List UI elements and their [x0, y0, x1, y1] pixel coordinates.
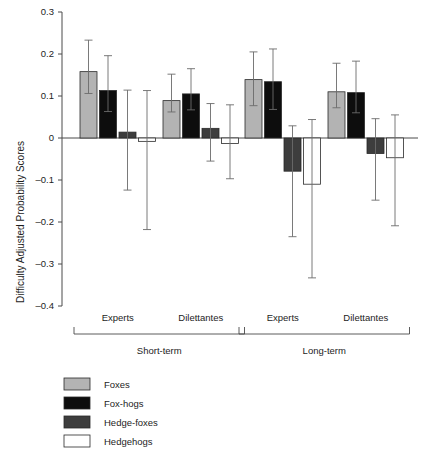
category-label-0: Experts [102, 312, 134, 323]
legend-swatch-fox-hogs [64, 397, 90, 409]
legend-swatch-hedgehogs [64, 435, 90, 447]
y-tick-label: –0.2 [36, 216, 55, 227]
y-tick-label: 0.1 [41, 90, 54, 101]
legend-label-1: Fox-hogs [104, 398, 144, 409]
y-tick-label: –0.4 [36, 300, 55, 311]
legend-swatch-foxes [64, 378, 90, 390]
chart-figure: Difficulty Adjusted Probability Scores 0… [0, 0, 426, 453]
legend-label-3: Hedgehogs [104, 436, 153, 447]
supergroup-label-1: Long-term [303, 345, 346, 356]
category-label-2: Experts [267, 312, 299, 323]
error-bar [391, 115, 399, 226]
bar-chart-canvas: Difficulty Adjusted Probability Scores 0… [0, 0, 426, 453]
legend-label-2: Hedge-foxes [104, 417, 158, 428]
y-tick-label: –0.1 [36, 174, 55, 185]
legend-swatch-hedge-foxes [64, 416, 90, 428]
legend: FoxesFox-hogsHedge-foxesHedgehogs [64, 378, 158, 447]
y-tick-label: 0.3 [41, 6, 54, 17]
legend-label-0: Foxes [104, 379, 130, 390]
category-labels: ExpertsDilettantesExpertsDilettantes [102, 312, 389, 323]
category-label-3: Dilettantes [343, 312, 388, 323]
bars-layer [80, 40, 404, 278]
error-bar [143, 91, 151, 230]
error-bar [372, 119, 380, 200]
y-axis-title: Difficulty Adjusted Probability Scores [15, 141, 26, 303]
error-bar [124, 90, 132, 190]
supergroup-label-0: Short-term [137, 345, 182, 356]
y-tick-label: –0.3 [36, 258, 55, 269]
supergroup-brackets: Short-termLong-term [74, 327, 410, 356]
category-label-1: Dilettantes [178, 312, 223, 323]
y-tick-label: 0.2 [41, 48, 54, 59]
y-axis: 0.30.20.10–0.1–0.2–0.3–0.4 [36, 6, 63, 311]
y-tick-label: 0 [49, 132, 54, 143]
